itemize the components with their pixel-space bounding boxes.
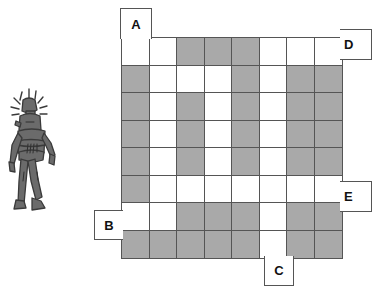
label-cell-b[interactable]: B: [94, 210, 123, 240]
grid-cell-r5c3[interactable]: [177, 148, 205, 176]
grid-cell-r8c6[interactable]: [260, 231, 288, 259]
label-cell-d[interactable]: D: [340, 29, 372, 60]
grid-cell-r6c1[interactable]: [122, 176, 150, 204]
grid-cell-r7c5[interactable]: [232, 203, 260, 231]
grid-cell-r3c6[interactable]: [260, 93, 288, 121]
grid-cell-r1c5[interactable]: [232, 38, 260, 66]
grid-cell-r3c3[interactable]: [177, 93, 205, 121]
grid-cell-r1c3[interactable]: [177, 38, 205, 66]
grid-cell-r3c1[interactable]: [122, 93, 150, 121]
grid-cell-r2c3[interactable]: [177, 66, 205, 94]
grid-cell-r1c4[interactable]: [205, 38, 233, 66]
grid-cell-r2c8[interactable]: [315, 66, 343, 94]
grid-cell-r3c4[interactable]: [205, 93, 233, 121]
grid-cell-r6c6[interactable]: [260, 176, 288, 204]
grid-cell-r6c5[interactable]: [232, 176, 260, 204]
grid-cell-r5c7[interactable]: [287, 148, 315, 176]
label-cell-a[interactable]: A: [120, 8, 152, 39]
grid-cell-r2c1[interactable]: [122, 66, 150, 94]
grid-cell-r7c6[interactable]: [260, 203, 288, 231]
robot-figure: [4, 86, 60, 222]
grid-cell-r2c7[interactable]: [287, 66, 315, 94]
label-c-text: C: [274, 264, 283, 277]
grid-cell-r8c1[interactable]: [122, 231, 150, 259]
grid-cell-r6c8[interactable]: [315, 176, 343, 204]
grid-cell-r6c4[interactable]: [205, 176, 233, 204]
grid-cell-r6c3[interactable]: [177, 176, 205, 204]
grid-cell-r5c4[interactable]: [205, 148, 233, 176]
grid-cell-r1c2[interactable]: [150, 38, 178, 66]
grid-cell-r5c6[interactable]: [260, 148, 288, 176]
grid-cell-r2c5[interactable]: [232, 66, 260, 94]
grid-cell-r6c7[interactable]: [287, 176, 315, 204]
grid-cell-r2c4[interactable]: [205, 66, 233, 94]
grid-cell-r8c7[interactable]: [287, 231, 315, 259]
grid-cell-r2c6[interactable]: [260, 66, 288, 94]
grid-cell-r6c2[interactable]: [150, 176, 178, 204]
grid-cell-r4c5[interactable]: [232, 121, 260, 149]
puzzle-grid[interactable]: [121, 37, 343, 259]
grid-cell-r3c5[interactable]: [232, 93, 260, 121]
grid-cell-r3c7[interactable]: [287, 93, 315, 121]
grid-cell-r5c8[interactable]: [315, 148, 343, 176]
grid-cell-r1c7[interactable]: [287, 38, 315, 66]
label-d-text: D: [344, 38, 353, 51]
grid-cell-r1c1[interactable]: [122, 38, 150, 66]
grid-cell-r2c2[interactable]: [150, 66, 178, 94]
grid-cell-r7c2[interactable]: [150, 203, 178, 231]
grid-cell-r5c2[interactable]: [150, 148, 178, 176]
grid-cell-r4c4[interactable]: [205, 121, 233, 149]
grid-cell-r4c3[interactable]: [177, 121, 205, 149]
robot-icon: [4, 86, 60, 222]
grid-cell-r7c1[interactable]: [122, 203, 150, 231]
grid-cell-r8c8[interactable]: [315, 231, 343, 259]
grid-cell-r7c7[interactable]: [287, 203, 315, 231]
grid-cell-r8c4[interactable]: [205, 231, 233, 259]
grid-cell-r5c5[interactable]: [232, 148, 260, 176]
grid-cell-r8c2[interactable]: [150, 231, 178, 259]
grid-cell-r3c2[interactable]: [150, 93, 178, 121]
grid-cell-r7c8[interactable]: [315, 203, 343, 231]
grid-cell-r4c2[interactable]: [150, 121, 178, 149]
grid-cell-r1c8[interactable]: [315, 38, 343, 66]
grid-cell-r3c8[interactable]: [315, 93, 343, 121]
grid-cell-r8c5[interactable]: [232, 231, 260, 259]
grid-cell-r7c4[interactable]: [205, 203, 233, 231]
label-b-text: B: [104, 219, 113, 232]
grid-cell-r4c8[interactable]: [315, 121, 343, 149]
label-e-text: E: [344, 190, 353, 203]
grid-cell-r4c1[interactable]: [122, 121, 150, 149]
grid-cell-r8c3[interactable]: [177, 231, 205, 259]
label-cell-c[interactable]: C: [264, 256, 294, 286]
label-a-text: A: [131, 18, 140, 31]
grid-cell-r1c6[interactable]: [260, 38, 288, 66]
grid-cell-r7c3[interactable]: [177, 203, 205, 231]
grid-cell-r4c7[interactable]: [287, 121, 315, 149]
label-cell-e[interactable]: E: [340, 181, 372, 212]
grid-cell-r5c1[interactable]: [122, 148, 150, 176]
grid-cell-r4c6[interactable]: [260, 121, 288, 149]
